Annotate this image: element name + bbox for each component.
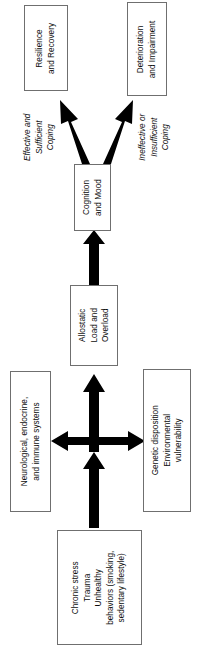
cognition-and-mood-node[interactable]: Cognition and Mood <box>74 164 111 231</box>
effective-sufficient-coping-label: Effective and Sufficient Coping <box>22 97 57 177</box>
allostatic-load-and-overload-label: Allostatic Load and Overload <box>77 308 112 343</box>
arrow-allostatic-to-cognition <box>83 230 105 285</box>
diagram-canvas: Resilience and Recovery Deterioration an… <box>0 0 204 656</box>
chronic-stress-trauma-label: Chronic stress Trauma Unhealthy behavior… <box>71 550 129 624</box>
allostatic-load-and-overload-node[interactable]: Allostatic Load and Overload <box>70 285 118 366</box>
resilience-and-recovery-label: Resilience and Recovery <box>35 22 58 73</box>
arrow-stressors-to-junction <box>83 452 105 528</box>
deterioration-and-impairment-node[interactable]: Deterioration and Impairment <box>127 2 167 96</box>
genetic-environmental-label: Genetic disposition Environmental vulner… <box>150 405 185 475</box>
arrow-cognition-to-resilience <box>60 100 90 164</box>
genetic-environmental-node[interactable]: Genetic disposition Environmental vulner… <box>143 369 191 512</box>
deterioration-and-impairment-label: Deterioration and Impairment <box>136 20 159 78</box>
chronic-stress-trauma-node[interactable]: Chronic stress Trauma Unhealthy behavior… <box>57 530 142 645</box>
neurological-endocrine-immune-node[interactable]: Neurological, endocrine, and immune syst… <box>10 371 51 512</box>
arrow-cognition-to-deterioration <box>103 100 133 164</box>
ineffective-insufficient-coping-label: Ineffective or Insufficient Coping <box>137 97 172 177</box>
neurological-endocrine-immune-label: Neurological, endocrine, and immune syst… <box>19 397 42 487</box>
cognition-and-mood-label: Cognition and Mood <box>81 179 104 216</box>
resilience-and-recovery-node[interactable]: Resilience and Recovery <box>24 5 68 91</box>
